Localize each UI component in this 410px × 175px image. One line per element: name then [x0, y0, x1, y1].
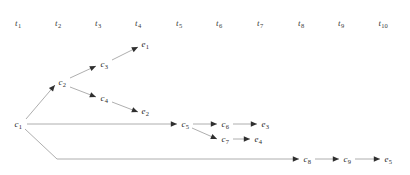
- edge-c1-c2: [26, 83, 57, 119]
- timeline-tick-t2: t2: [55, 18, 61, 28]
- edge-c5-c7: [192, 128, 218, 141]
- node-c9: c9: [343, 154, 350, 164]
- arrowhead-icon: [171, 121, 177, 126]
- node-e5: e5: [384, 154, 391, 164]
- arrowhead-icon: [131, 107, 139, 114]
- node-c4: c4: [100, 93, 107, 103]
- node-c6: c6: [221, 119, 228, 129]
- timeline-tick-t8: t8: [298, 18, 304, 28]
- node-c7: c7: [221, 134, 228, 144]
- arrowhead-icon: [374, 156, 380, 161]
- node-c8: c8: [303, 154, 310, 164]
- edge-c6-e3: [233, 121, 257, 126]
- edge-c7-e4: [233, 136, 250, 141]
- arrowhead-icon: [131, 45, 139, 53]
- edge-c9-e5: [355, 156, 380, 161]
- node-c3: c3: [100, 59, 107, 69]
- edge-c4-e2: [112, 102, 139, 115]
- edge-c8-c9: [315, 156, 339, 161]
- diagram-canvas: t1t2t3t4t5t6t7t8t9t10 c1c2c3c4e1e2c5c6c7…: [0, 0, 410, 175]
- arrowhead-icon: [244, 136, 250, 141]
- arrowhead-icon: [89, 92, 97, 99]
- node-e3: e3: [261, 119, 268, 129]
- node-c5: c5: [181, 119, 188, 129]
- node-e4: e4: [254, 134, 261, 144]
- edge-c3-e1: [112, 45, 139, 60]
- node-c2: c2: [58, 77, 65, 87]
- arrowhead-icon: [210, 134, 218, 141]
- node-e1: e1: [141, 39, 148, 49]
- timeline-tick-t7: t7: [257, 18, 263, 28]
- node-e2: e2: [141, 106, 148, 116]
- timeline-tick-t6: t6: [216, 18, 222, 28]
- timeline-tick-t3: t3: [95, 18, 101, 28]
- edge-c5-c6: [193, 121, 217, 126]
- timeline-tick-t10: t10: [378, 18, 387, 28]
- arrowhead-icon: [89, 64, 97, 72]
- edge-line: [26, 85, 55, 119]
- arrowhead-icon: [293, 156, 299, 161]
- edge-c1-c5: [27, 121, 177, 126]
- timeline-tick-t1: t1: [15, 18, 21, 28]
- node-c1: c1: [14, 119, 21, 129]
- arrowhead-icon: [333, 156, 339, 161]
- edge-c2-c3: [70, 64, 97, 78]
- timeline-tick-t9: t9: [338, 18, 344, 28]
- timeline-tick-t4: t4: [135, 18, 141, 28]
- edge-c2-c4: [70, 87, 97, 100]
- arrowhead-icon: [211, 121, 217, 126]
- timeline-tick-t5: t5: [176, 18, 182, 28]
- arrowhead-icon: [251, 121, 257, 126]
